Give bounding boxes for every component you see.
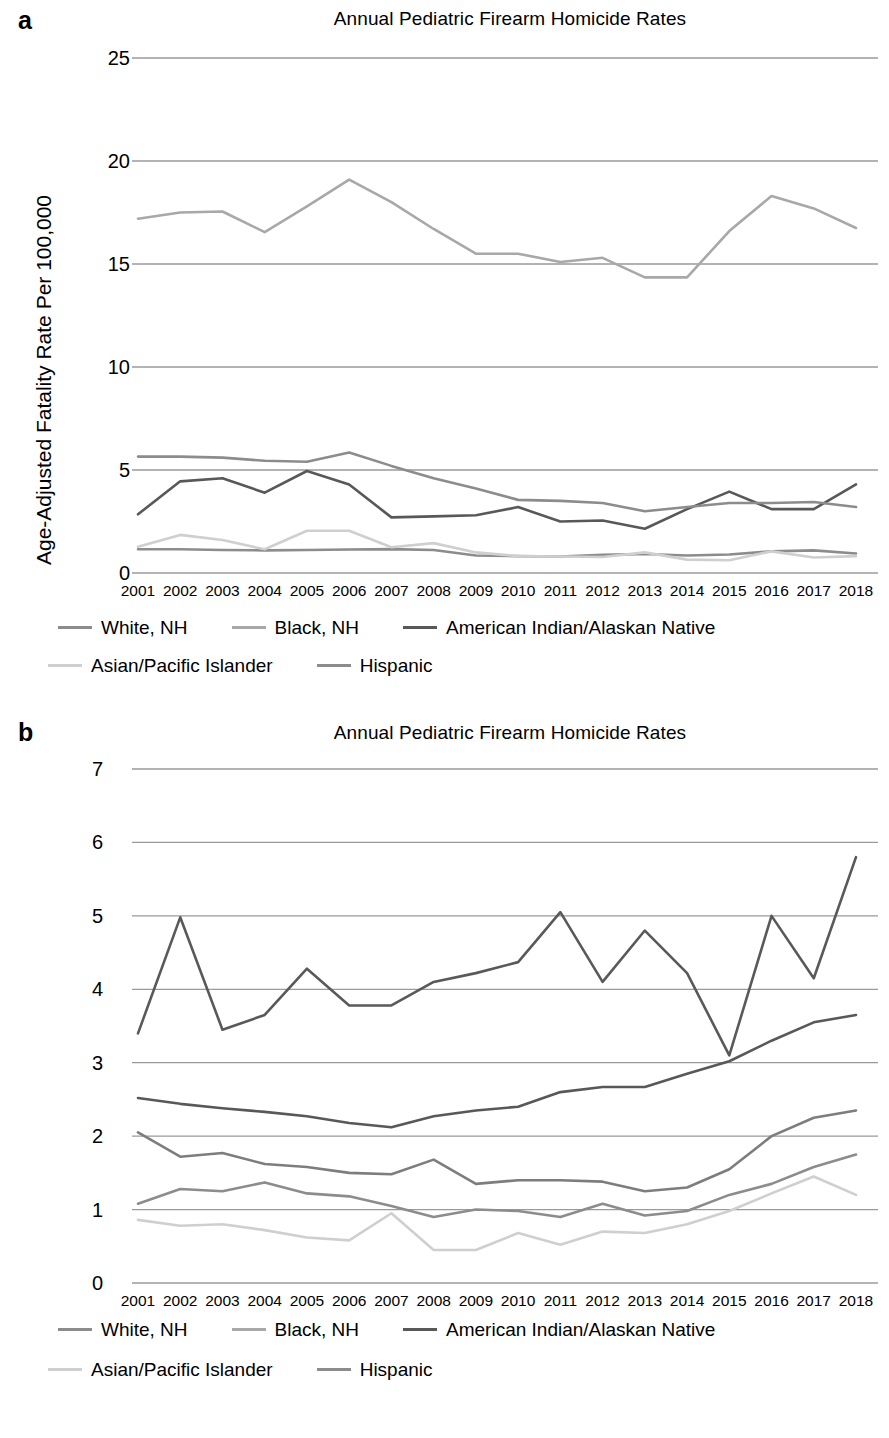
y-axis-tick-label: 0	[70, 563, 130, 583]
legend-row: White, NHBlack, NHAmerican Indian/Alaska…	[58, 618, 715, 637]
legend-item[interactable]: White, NH	[58, 618, 188, 637]
legend-item[interactable]: American Indian/Alaskan Native	[403, 1320, 715, 1339]
legend-label: Asian/Pacific Islander	[91, 1360, 273, 1379]
legend-label: American Indian/Alaskan Native	[446, 1320, 715, 1339]
y-axis-tick-label: 6	[43, 832, 103, 852]
y-axis-tick-label: 3	[43, 1053, 103, 1073]
legend-swatch-icon	[48, 664, 82, 667]
legend-item[interactable]: Hispanic	[317, 656, 433, 675]
series-line	[138, 180, 856, 278]
y-axis-tick-label: 5	[70, 460, 130, 480]
panel-b-legend: White, NHBlack, NHAmerican Indian/Alaska…	[0, 1320, 889, 1400]
legend-label: Hispanic	[360, 1360, 433, 1379]
legend-swatch-icon	[403, 1328, 437, 1331]
series-line	[138, 1155, 856, 1217]
y-axis-tick-label: 5	[43, 906, 103, 926]
legend-item[interactable]: White, NH	[58, 1320, 188, 1339]
legend-label: White, NH	[101, 618, 188, 637]
y-axis-tick-label: 2	[43, 1126, 103, 1146]
legend-swatch-icon	[317, 664, 351, 667]
legend-swatch-icon	[317, 1368, 351, 1371]
series-line	[138, 1015, 856, 1127]
legend-item[interactable]: Hispanic	[317, 1360, 433, 1379]
legend-swatch-icon	[58, 1328, 92, 1331]
legend-item[interactable]: Asian/Pacific Islander	[48, 656, 273, 675]
panel-a-legend: White, NHBlack, NHAmerican Indian/Alaska…	[0, 618, 889, 690]
y-axis-tick-label: 0	[43, 1273, 103, 1293]
panel-b: b Annual Pediatric Firearm Homicide Rate…	[0, 700, 889, 1438]
gridlines	[132, 769, 878, 1283]
y-axis-tick-label: 25	[70, 48, 130, 68]
series-line	[138, 1110, 856, 1191]
series-line	[138, 471, 856, 529]
y-axis-tick-label: 15	[70, 254, 130, 274]
panel-b-plot-area: 0123456720012002200320042005200620072008…	[0, 700, 889, 1310]
legend-item[interactable]: American Indian/Alaskan Native	[403, 618, 715, 637]
series-line	[138, 452, 856, 511]
legend-swatch-icon	[232, 1328, 266, 1331]
series-line	[138, 857, 856, 1055]
chart-b-svg	[0, 700, 889, 1310]
legend-label: Black, NH	[275, 618, 359, 637]
legend-swatch-icon	[232, 626, 266, 629]
y-axis-tick-label: 1	[43, 1200, 103, 1220]
legend-item[interactable]: Black, NH	[232, 1320, 359, 1339]
x-axis-tick-label: 2018	[830, 1293, 882, 1309]
legend-row: Asian/Pacific IslanderHispanic	[48, 1360, 433, 1379]
legend-label: American Indian/Alaskan Native	[446, 618, 715, 637]
legend-row: White, NHBlack, NHAmerican Indian/Alaska…	[58, 1320, 715, 1339]
legend-item[interactable]: Asian/Pacific Islander	[48, 1360, 273, 1379]
legend-label: Black, NH	[275, 1320, 359, 1339]
legend-row: Asian/Pacific IslanderHispanic	[48, 656, 433, 675]
legend-swatch-icon	[48, 1368, 82, 1371]
legend-label: Hispanic	[360, 656, 433, 675]
legend-item[interactable]: Black, NH	[232, 618, 359, 637]
legend-swatch-icon	[403, 626, 437, 629]
legend-label: Asian/Pacific Islander	[91, 656, 273, 675]
y-axis-tick-label: 10	[70, 357, 130, 377]
panel-a: a Annual Pediatric Firearm Homicide Rate…	[0, 0, 889, 700]
y-axis-tick-label: 4	[43, 979, 103, 999]
panel-a-plot-area: 0510152025200120022003200420052006200720…	[0, 0, 889, 600]
y-axis-tick-label: 7	[43, 759, 103, 779]
x-axis-tick-label: 2018	[830, 583, 882, 599]
legend-label: White, NH	[101, 1320, 188, 1339]
legend-swatch-icon	[58, 626, 92, 629]
chart-a-svg	[0, 0, 889, 600]
y-axis-tick-label: 20	[70, 151, 130, 171]
